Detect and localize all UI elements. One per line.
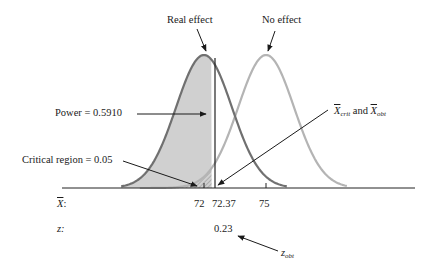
power-shaded-area — [121, 55, 211, 188]
tick-label-72-37: 72.37 — [212, 199, 236, 210]
critical-region-label: Critical region = 0.05 — [22, 155, 113, 166]
xbar-row-label: X: — [57, 199, 66, 210]
z-value-0-23: 0.23 — [214, 224, 232, 235]
real-effect-arrow — [197, 29, 206, 51]
xbar-colon: : — [63, 198, 66, 209]
tick-label-75: 75 — [259, 199, 270, 210]
no-effect-arrow — [268, 31, 275, 51]
zobt-subscript: obt — [285, 252, 294, 260]
z-row-label: z: — [57, 224, 65, 235]
zobt-label: zobt — [281, 248, 294, 260]
zobt-arrow — [238, 236, 278, 251]
tick-label-72: 72 — [194, 199, 205, 210]
xobt-subscript: obt — [377, 110, 386, 118]
and-text: and — [350, 105, 370, 116]
xcrit-xobt-label: Xcrit and Xobt — [334, 106, 386, 118]
xcrit-arrow — [218, 110, 328, 185]
xcrit-subscript: crit — [340, 110, 350, 118]
power-label: Power = 0.5910 — [55, 108, 122, 119]
no-effect-label: No effect — [262, 15, 301, 26]
real-effect-label: Real effect — [167, 15, 213, 26]
